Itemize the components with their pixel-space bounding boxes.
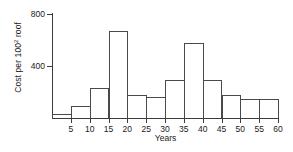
x-axis-tick	[240, 118, 241, 123]
y-axis-title: Cost per 1002 roof	[13, 7, 24, 107]
x-axis-tick	[71, 118, 72, 123]
x-axis-tick	[165, 118, 166, 123]
histogram-bar	[259, 99, 279, 119]
histogram-bar	[184, 43, 204, 118]
histogram-bar	[71, 106, 91, 118]
histogram-bar	[165, 80, 185, 118]
x-axis-tick	[109, 118, 110, 123]
y-axis-tick	[47, 66, 52, 67]
histogram-bar	[240, 99, 260, 119]
y-axis-tick-label: 400	[31, 62, 45, 71]
histogram-bar	[222, 95, 242, 118]
histogram-bar	[127, 95, 147, 118]
histogram-bar	[52, 114, 72, 118]
x-axis-tick	[146, 118, 147, 123]
x-axis-tick	[90, 118, 91, 123]
x-axis-tick	[278, 118, 279, 123]
plot-area: 40080051015202530354045505560	[52, 14, 278, 118]
y-axis-title-suffix: roof	[13, 22, 23, 40]
histogram-bar	[90, 88, 110, 118]
x-axis-tick	[184, 118, 185, 123]
histogram-bar	[203, 80, 223, 118]
histogram-bar	[109, 31, 129, 118]
y-axis-title-text: Cost per 100	[13, 43, 23, 93]
x-axis-tick	[127, 118, 128, 123]
x-axis-tick	[259, 118, 260, 123]
x-axis-tick	[222, 118, 223, 123]
x-axis-title: Years	[52, 133, 279, 143]
histogram-bar	[146, 97, 166, 118]
y-axis-tick	[47, 14, 52, 15]
y-axis-tick-label: 800	[31, 10, 45, 19]
y-axis-title-superscript: 2	[13, 40, 19, 43]
x-axis-tick	[203, 118, 204, 123]
histogram-chart: Cost per 1002 roof 400800510152025303540…	[0, 0, 293, 152]
